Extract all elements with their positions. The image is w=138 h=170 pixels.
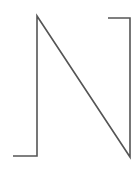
- n-shape-drawing: [0, 0, 138, 170]
- n-shape-polyline: [13, 16, 130, 157]
- diagram-canvas: [0, 0, 138, 170]
